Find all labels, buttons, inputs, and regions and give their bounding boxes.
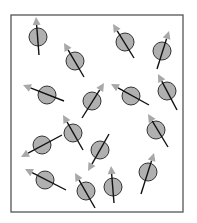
spin-diagram bbox=[0, 0, 197, 223]
spin-dipole bbox=[64, 43, 84, 77]
arrowhead-icon bbox=[113, 24, 121, 33]
arrowhead-icon bbox=[96, 83, 104, 92]
spin-dipole bbox=[63, 115, 83, 150]
spin-dipole bbox=[75, 173, 95, 208]
spin-dipole bbox=[23, 84, 64, 104]
spin-dipole bbox=[111, 84, 149, 105]
spin-dipole bbox=[88, 134, 109, 171]
spin-dipole bbox=[25, 169, 66, 190]
spin-dipole bbox=[21, 135, 62, 157]
arrowhead-icon bbox=[108, 166, 116, 174]
spin-dipole bbox=[139, 153, 157, 194]
spin-dipole bbox=[29, 17, 47, 55]
spins-group bbox=[21, 17, 177, 208]
spin-dipole bbox=[158, 74, 177, 110]
spin-dipole bbox=[153, 31, 171, 69]
spin-dipole bbox=[104, 166, 122, 203]
spin-dipole bbox=[147, 114, 168, 147]
arrowhead-icon bbox=[148, 153, 156, 162]
arrowhead-icon bbox=[163, 31, 171, 40]
spin-dipole bbox=[113, 24, 134, 58]
spin-circle bbox=[116, 33, 134, 51]
spin-circle bbox=[122, 87, 140, 105]
spin-dipole bbox=[82, 83, 104, 118]
arrowhead-icon bbox=[33, 17, 41, 25]
